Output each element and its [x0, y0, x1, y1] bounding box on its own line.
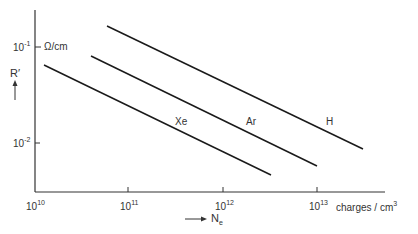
x-tick-base: 10 — [215, 201, 226, 212]
series-label-xe: Xe — [175, 117, 187, 127]
series-line-xe — [44, 65, 271, 175]
x-tick-label-1e12: 1012 — [215, 200, 234, 212]
y-tick-exp: -2 — [24, 136, 30, 143]
series-label-h: H — [326, 117, 333, 127]
series-label-ar: Ar — [246, 117, 256, 127]
y-tick-base: 10 — [13, 138, 24, 149]
x-axis-label-sub: e — [219, 219, 223, 226]
x-tick-label-1e11: 1011 — [120, 200, 138, 212]
y-tick-base: 10 — [13, 42, 24, 53]
x-tick-base: 10 — [309, 201, 320, 212]
x-tick-exp: 11 — [131, 199, 138, 206]
x-tick-exp: 10 — [37, 199, 45, 206]
y-tick-label-1e-2: 10-2 — [13, 137, 30, 149]
y-tick-exp: -1 — [24, 40, 30, 47]
x-unit-text: charges / cm — [336, 202, 393, 213]
x-tick-exp: 12 — [226, 199, 234, 206]
x-tick-base: 10 — [120, 201, 131, 212]
x-unit-exp: 3 — [393, 200, 397, 207]
y-axis-label: R′ — [10, 68, 20, 79]
series-line-h — [107, 26, 363, 149]
x-arrow-icon — [185, 217, 207, 222]
x-tick-base: 10 — [26, 201, 37, 212]
x-axis-label-base: N — [211, 212, 219, 224]
chart-canvas — [0, 0, 418, 234]
y-unit-label: Ω/cm — [44, 42, 68, 52]
x-unit-label: charges / cm3 — [336, 201, 397, 213]
y-tick-label-1e-1: 10-1 — [13, 41, 30, 53]
y-arrow-icon — [13, 80, 18, 100]
x-tick-label-1e13: 1013 — [309, 200, 328, 212]
x-tick-exp: 13 — [320, 199, 328, 206]
x-tick-label-1e10: 1010 — [26, 200, 45, 212]
x-axis-label: Ne — [211, 213, 223, 226]
